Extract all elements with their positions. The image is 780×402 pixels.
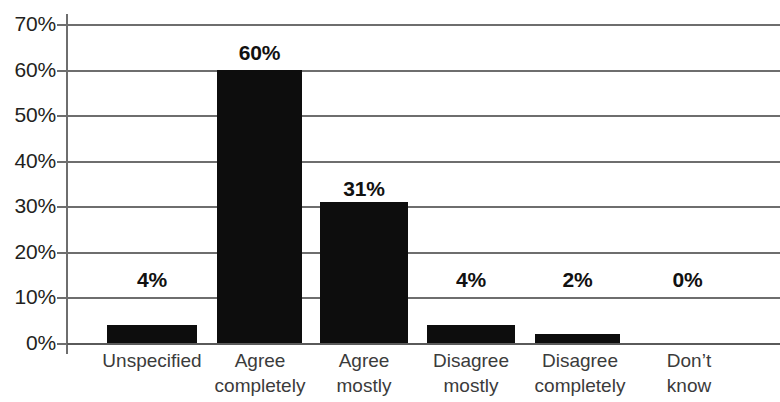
category-label-agree-completely: Agree completely: [199, 348, 321, 398]
gridline-40: [67, 161, 780, 163]
gridline-50: [67, 115, 780, 117]
value-label-agree-mostly: 31%: [317, 177, 411, 201]
value-label-disagree-completely: 2%: [535, 268, 620, 292]
y-tick-label-30: 30%: [0, 194, 56, 218]
bar-disagree-mostly: [427, 325, 515, 343]
x-axis-category-labels: Unspecified Agree completely Agree mostl…: [67, 348, 780, 402]
value-label-unspecified: 4%: [107, 268, 197, 292]
gridline-60: [67, 70, 780, 72]
x-axis-baseline: [67, 343, 780, 345]
category-label-agree-mostly: Agree mostly: [314, 348, 414, 398]
category-label-disagree-completely: Disagree completely: [519, 348, 641, 398]
value-label-agree-completely: 60%: [212, 41, 307, 65]
y-tick-label-10: 10%: [0, 285, 56, 309]
bar-agree-mostly: [320, 202, 408, 343]
category-label-unspecified: Unspecified: [87, 348, 217, 373]
gridline-70: [67, 24, 780, 26]
gridline-10: [67, 297, 780, 299]
bar-disagree-completely: [535, 334, 620, 343]
gridline-30: [67, 206, 780, 208]
y-axis-tick-labels: 70% 60% 50% 40% 30% 20% 10% 0%: [0, 0, 56, 402]
value-label-dont-know: 0%: [645, 268, 730, 292]
bar-unspecified: [107, 325, 197, 343]
plot-area: 4% 60% 31% 4% 2% 0%: [67, 24, 780, 343]
bar-agree-completely: [217, 70, 302, 343]
y-tick-label-60: 60%: [0, 58, 56, 82]
y-tick-label-70: 70%: [0, 12, 56, 36]
y-tick-label-40: 40%: [0, 149, 56, 173]
bar-chart: 70% 60% 50% 40% 30% 20% 10% 0% 4% 60: [0, 0, 780, 402]
y-tick-label-0: 0%: [0, 331, 56, 355]
y-tick-label-20: 20%: [0, 240, 56, 264]
y-tick-label-50: 50%: [0, 103, 56, 127]
gridline-20: [67, 252, 780, 254]
value-label-disagree-mostly: 4%: [427, 268, 515, 292]
category-label-dont-know: Don’t know: [645, 348, 733, 398]
category-label-disagree-mostly: Disagree mostly: [415, 348, 527, 398]
